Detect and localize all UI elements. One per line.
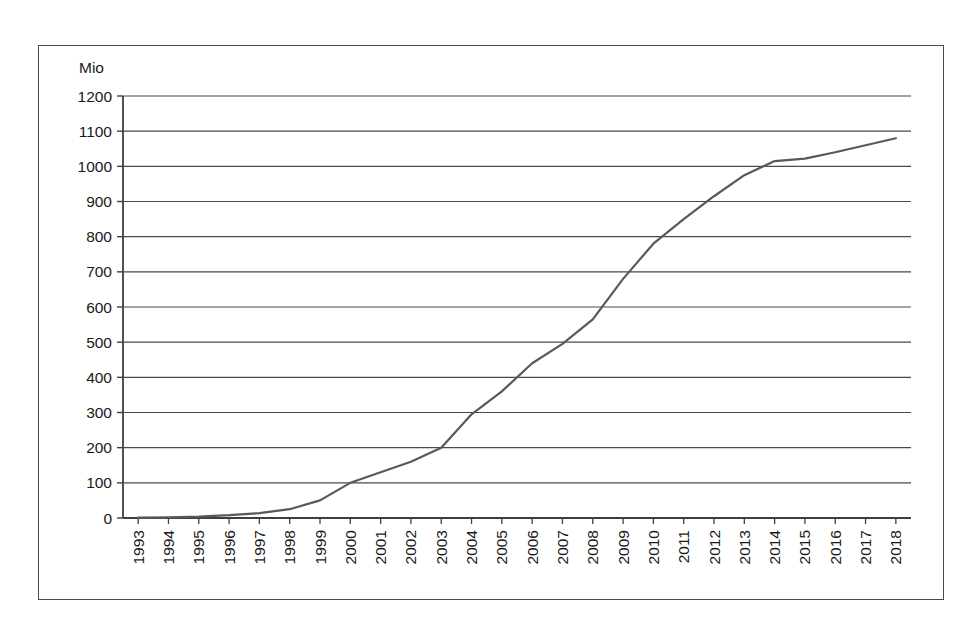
y-axis-unit-label: Mio bbox=[79, 59, 104, 76]
x-tick-label: 2007 bbox=[554, 530, 571, 564]
y-tick-label: 700 bbox=[86, 263, 112, 280]
x-tick-label: 2014 bbox=[766, 530, 783, 565]
x-tick-label: 1994 bbox=[160, 530, 177, 565]
x-tick-label: 2004 bbox=[463, 530, 480, 565]
y-tick-label: 600 bbox=[86, 299, 112, 316]
x-tick-label: 1993 bbox=[130, 530, 147, 564]
x-tick-label: 2016 bbox=[827, 530, 844, 564]
x-tick-label: 2003 bbox=[433, 530, 450, 564]
x-tick-label: 2013 bbox=[736, 530, 753, 564]
x-tick-label: 1999 bbox=[312, 530, 329, 564]
y-tick-label: 500 bbox=[86, 334, 112, 351]
x-tick-labels: 1993199419951996199719981999200020012002… bbox=[130, 530, 905, 565]
y-tick-labels: 1200110010009008007006005004003002001000 bbox=[78, 88, 113, 527]
x-tick-label: 2006 bbox=[524, 530, 541, 564]
x-tick-label: 1997 bbox=[251, 530, 268, 564]
y-tick-label: 100 bbox=[86, 474, 112, 491]
x-tick-label: 2017 bbox=[857, 530, 874, 564]
y-tick-label: 200 bbox=[86, 439, 112, 456]
page-root: Mio 120011001000900800700600500400300200… bbox=[0, 0, 978, 624]
x-tick-label: 2012 bbox=[706, 530, 723, 564]
y-tick-label: 300 bbox=[86, 404, 112, 421]
y-tick-label: 1200 bbox=[78, 88, 113, 105]
data-series-line bbox=[138, 138, 896, 517]
x-tick-label: 1996 bbox=[221, 530, 238, 564]
y-tick-label: 900 bbox=[86, 193, 112, 210]
x-tick-marks bbox=[138, 518, 896, 524]
y-tick-label: 1000 bbox=[78, 158, 113, 175]
x-tick-label: 2015 bbox=[796, 530, 813, 564]
x-tick-label: 2018 bbox=[887, 530, 904, 564]
chart-frame: Mio 120011001000900800700600500400300200… bbox=[38, 45, 944, 600]
x-tick-label: 2008 bbox=[584, 530, 601, 564]
x-tick-label: 2005 bbox=[493, 530, 510, 564]
line-chart: Mio 120011001000900800700600500400300200… bbox=[39, 46, 945, 601]
x-tick-label: 2009 bbox=[615, 530, 632, 564]
y-tick-label: 1100 bbox=[79, 123, 113, 140]
x-tick-label: 2011 bbox=[675, 530, 692, 563]
x-tick-label: 1995 bbox=[190, 530, 207, 564]
y-tick-label: 0 bbox=[103, 510, 112, 527]
y-tick-label: 400 bbox=[86, 369, 112, 386]
x-tick-label: 2010 bbox=[645, 530, 662, 565]
x-tick-label: 1998 bbox=[281, 530, 298, 564]
y-tick-label: 800 bbox=[86, 228, 112, 245]
x-tick-label: 2000 bbox=[342, 530, 359, 565]
x-tick-label: 2002 bbox=[402, 530, 419, 564]
x-tick-label: 2001 bbox=[372, 530, 389, 564]
